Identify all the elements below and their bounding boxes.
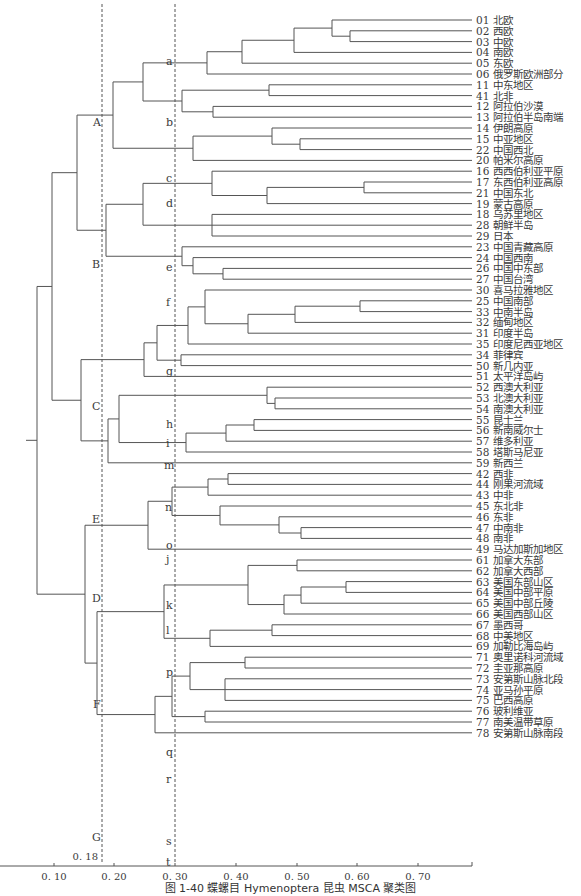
- cluster-label-i: i: [166, 437, 170, 450]
- leaf-label-78: 78 安第斯山脉南段: [476, 727, 564, 739]
- cluster-label-o: o: [166, 539, 173, 552]
- cluster-label-f: f: [166, 296, 171, 309]
- cluster-label-E: E: [92, 513, 100, 526]
- cluster-label-m: m: [164, 459, 175, 472]
- cluster-label-G: G: [92, 831, 101, 844]
- cluster-label-h: h: [166, 418, 173, 431]
- cluster-label-D: D: [92, 592, 101, 605]
- cluster-label-b: b: [166, 116, 173, 129]
- dendrogram-figure: 0. 18 01 北欧02 西欧03 中欧04 南欧05 东欧06 俄罗斯欧洲部…: [0, 0, 581, 896]
- cluster-label-r: r: [166, 773, 172, 786]
- cluster-label-g: g: [166, 365, 173, 378]
- figure-caption: 图 1-40 蝶螺目 Hymenoptera 昆虫 MSCA 聚类图: [0, 879, 581, 895]
- cluster-label-s: s: [166, 835, 172, 848]
- leaf-labels: 01 北欧02 西欧03 中欧04 南欧05 东欧06 俄罗斯欧洲部分11 中东…: [476, 14, 564, 739]
- cluster-label-c: c: [166, 172, 172, 185]
- cluster-label-n: n: [165, 501, 172, 514]
- dendrogram-svg: 0. 18 01 北欧02 西欧03 中欧04 南欧05 东欧06 俄罗斯欧洲部…: [0, 0, 581, 896]
- cluster-label-t: t: [166, 856, 171, 869]
- cluster-label-q: q: [166, 746, 173, 759]
- cluster-label-A: A: [92, 116, 102, 129]
- cluster-label-l: l: [166, 624, 170, 637]
- cluster-label-F: F: [93, 698, 101, 711]
- cluster-labels: ABCEDFGabcdefghimnojklpqrst: [92, 55, 175, 869]
- cutoff-label: 0. 18: [73, 851, 98, 862]
- cluster-label-d: d: [166, 197, 173, 210]
- cluster-label-a: a: [166, 55, 173, 68]
- cluster-label-k: k: [166, 599, 173, 612]
- cluster-label-e: e: [166, 261, 173, 274]
- cluster-label-C: C: [92, 400, 100, 413]
- cluster-label-p: p: [166, 666, 173, 679]
- cluster-label-B: B: [92, 258, 100, 271]
- cluster-label-j: j: [164, 553, 169, 566]
